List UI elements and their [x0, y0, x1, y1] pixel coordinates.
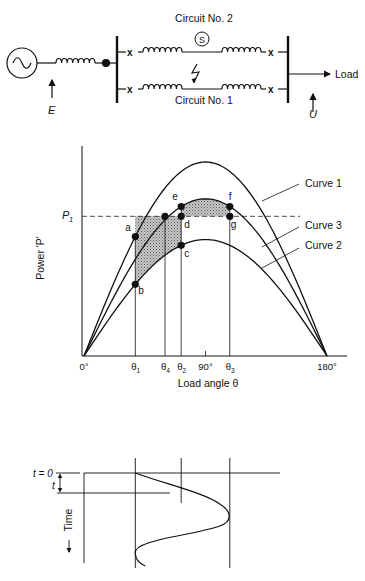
- breaker-x: x: [268, 84, 274, 95]
- curve-leader-line: [262, 227, 299, 247]
- junction-node: [103, 60, 110, 67]
- point-f: [226, 203, 233, 210]
- decelerating-area: [181, 199, 230, 216]
- x-tick-label: 0°: [79, 361, 88, 372]
- x-tick-label: 180°: [317, 361, 337, 372]
- generator-reactance-coil: [56, 59, 95, 64]
- legend-curve-2: Curve 2: [305, 239, 342, 251]
- circuit-1-label: Circuit No. 1: [175, 94, 233, 106]
- swing-time-plot: [56, 458, 280, 568]
- point-label-e: e: [172, 191, 178, 202]
- ac-source-icon: [7, 48, 37, 78]
- switch-label: S: [199, 35, 205, 45]
- x-axis-label: Load angle θ: [178, 377, 239, 389]
- curve-leader-line: [262, 248, 299, 268]
- series-curve-1: [84, 162, 327, 356]
- point-label-d: d: [184, 219, 190, 230]
- t0-label: t = 0: [33, 468, 53, 479]
- point-e: [178, 203, 185, 210]
- breaker-x: x: [127, 47, 133, 58]
- x-tick-label: θ3: [226, 361, 235, 374]
- circuit-1-line: [117, 85, 288, 90]
- power-angle-chart: abedcfg 0°θ1θ4θ290°θ3180° Curve 1Curve 3…: [34, 146, 347, 389]
- x-tick-label: θ2: [177, 361, 186, 374]
- x-tick-label: 90°: [198, 361, 213, 372]
- x-tick-label: θ4: [161, 361, 170, 374]
- point-label-c: c: [184, 248, 189, 259]
- circuit-diagram: [7, 32, 330, 112]
- e-label: E: [48, 104, 56, 116]
- point-a: [132, 233, 139, 240]
- load-label: Load: [335, 68, 359, 80]
- t-label: t: [52, 480, 56, 491]
- point-label-b: b: [138, 285, 144, 296]
- circuit-2-line: [117, 48, 288, 53]
- series-curve-3: [84, 199, 327, 356]
- y-axis-label: Power 'P': [34, 236, 46, 280]
- legend-curve-1: Curve 1: [305, 177, 342, 189]
- point-theta4: [161, 213, 168, 220]
- series-curve-2: [84, 240, 327, 356]
- legend-curve-3: Curve 3: [305, 219, 342, 231]
- power-system-stability-diagram: x x x x Circuit No. 2 Circuit No. 1 S Lo…: [0, 0, 365, 581]
- x-tick-label: θ1: [131, 361, 140, 374]
- swing-curve: [135, 473, 229, 566]
- circuit-2-label: Circuit No. 2: [175, 12, 233, 24]
- u-label: U: [309, 108, 317, 120]
- point-label-f: f: [229, 191, 232, 202]
- curve-leader-line: [262, 184, 299, 201]
- p1-label: P1: [62, 209, 73, 223]
- point-label-a: a: [125, 222, 131, 233]
- breaker-x: x: [127, 84, 133, 95]
- point-label-g: g: [231, 219, 237, 230]
- time-label: Time: [62, 508, 74, 531]
- breaker-x: x: [268, 47, 274, 58]
